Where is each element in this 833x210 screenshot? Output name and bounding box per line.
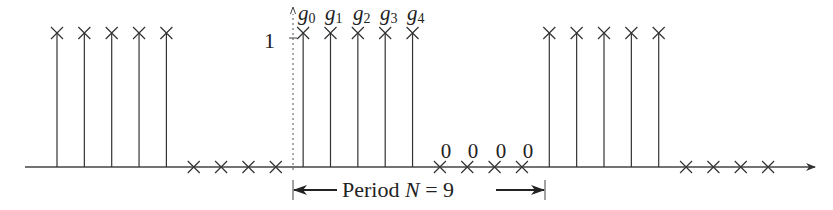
zero-label: 0 bbox=[523, 139, 534, 163]
periodic-sequence-diagram: 1 g0 g1 g2 g3 g4 0 0 0 0 Period N = 9 bbox=[0, 0, 833, 210]
zero-label: 0 bbox=[441, 139, 452, 163]
period-annotation: Period N = 9 bbox=[293, 177, 545, 202]
stems-group bbox=[51, 27, 665, 167]
label-g3: g3 bbox=[380, 1, 398, 26]
label-g1: g1 bbox=[325, 1, 343, 26]
sample-labels: g0 g1 g2 g3 g4 bbox=[298, 1, 425, 26]
period-label: Period N = 9 bbox=[342, 177, 454, 202]
vertical-axis-arrow-icon bbox=[291, 7, 296, 14]
label-g2: g2 bbox=[353, 1, 371, 26]
label-g4: g4 bbox=[407, 1, 425, 26]
label-g0: g0 bbox=[298, 1, 316, 26]
zero-label: 0 bbox=[468, 139, 479, 163]
y-tick-label: 1 bbox=[264, 28, 275, 53]
zero-label: 0 bbox=[496, 139, 507, 163]
zero-labels: 0 0 0 0 bbox=[441, 139, 534, 163]
